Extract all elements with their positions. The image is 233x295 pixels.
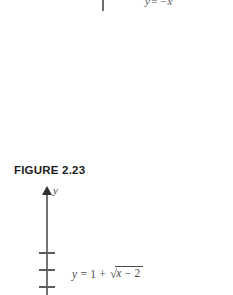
clipped-equation-equals: = bbox=[150, 0, 159, 7]
figure-caption: FIGURE 2.23 bbox=[14, 164, 85, 176]
y-axis-label: y bbox=[53, 184, 58, 196]
clipped-equation-sign: − bbox=[159, 0, 168, 7]
radicand-constant: 2 bbox=[134, 267, 140, 279]
axis-tick-mark bbox=[39, 286, 55, 288]
clipped-equation-label: y=−x2 bbox=[145, 0, 177, 7]
curve-equation-equals: = bbox=[77, 268, 90, 280]
curve-equation-plus: + bbox=[96, 268, 109, 280]
y-axis-arrow-icon bbox=[42, 186, 52, 195]
clipped-axis-stub bbox=[102, 0, 104, 11]
radicand-variable: x bbox=[116, 267, 121, 279]
axis-tick-mark bbox=[39, 269, 55, 271]
clipped-figure-fragment: y=−x2 bbox=[0, 0, 233, 26]
radicand-minus: − bbox=[122, 267, 135, 279]
y-axis-line bbox=[46, 191, 48, 295]
clipped-equation-exponent: 2 bbox=[173, 0, 177, 2]
axis-tick-mark bbox=[39, 252, 55, 254]
square-root-expression: √x−2 bbox=[109, 267, 142, 282]
coordinate-diagram: y y=1+√x−2 bbox=[0, 185, 233, 295]
figure-page: y=−x2 FIGURE 2.23 y y=1+√x−2 bbox=[0, 0, 233, 295]
radicand: x−2 bbox=[115, 266, 142, 279]
curve-equation-label: y=1+√x−2 bbox=[72, 267, 143, 282]
